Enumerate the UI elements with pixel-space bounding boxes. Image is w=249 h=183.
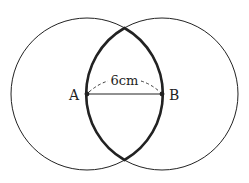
point-a <box>85 92 90 97</box>
label-a: A <box>68 87 80 103</box>
two-circles-diagram: A B 6cm <box>0 0 249 183</box>
dashed-arc-left <box>89 81 108 92</box>
distance-label: 6cm <box>111 73 139 88</box>
point-b <box>160 92 165 97</box>
label-b: B <box>169 87 179 103</box>
dashed-arc-right <box>141 81 160 92</box>
